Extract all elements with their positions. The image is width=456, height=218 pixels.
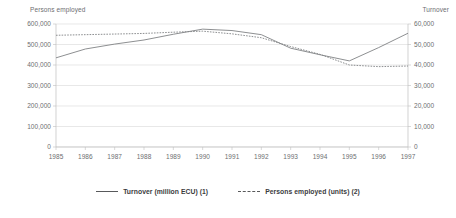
x-tick-label: 1988 — [137, 153, 152, 160]
left-tick-label: 500,000 — [27, 41, 51, 48]
right-axis-tick-labels: 010,00020,00030,00040,00050,00060,000 — [414, 20, 435, 150]
legend-item-turnover: Turnover (million ECU) (1) — [96, 188, 208, 195]
x-tick-label: 1989 — [166, 153, 181, 160]
right-tick-label: 30,000 — [414, 82, 435, 89]
data-series — [56, 29, 408, 67]
x-tick-label: 1996 — [371, 153, 386, 160]
series-line-persons-employed — [56, 31, 408, 66]
left-tick-label: 0 — [47, 143, 51, 150]
left-tick-label: 600,000 — [27, 20, 51, 27]
x-tick-label: 1997 — [401, 153, 416, 160]
chart-container: Persons employed Turnover 0100,000200,00… — [0, 0, 456, 218]
gridlines — [56, 24, 408, 147]
x-tick-label: 1985 — [49, 153, 64, 160]
right-tick-label: 60,000 — [414, 20, 435, 27]
left-tick-label: 100,000 — [27, 123, 51, 130]
x-tick-label: 1991 — [225, 153, 240, 160]
legend-line-dashed-icon — [238, 191, 260, 193]
x-tick-label: 1995 — [342, 153, 357, 160]
x-tick-label: 1992 — [254, 153, 269, 160]
x-tick-label: 1994 — [313, 153, 328, 160]
right-tick-label: 50,000 — [414, 41, 435, 48]
x-tick-label: 1990 — [195, 153, 210, 160]
x-axis-tick-labels: 1985198619871988198919901991199219931994… — [49, 153, 416, 160]
left-axis-tick-labels: 0100,000200,000300,000400,000500,000600,… — [27, 20, 51, 150]
axis-tickmarks — [53, 24, 411, 150]
left-tick-label: 400,000 — [27, 61, 51, 68]
right-tick-label: 10,000 — [414, 123, 435, 130]
right-tick-label: 40,000 — [414, 61, 435, 68]
chart-legend: Turnover (million ECU) (1) Persons emplo… — [0, 188, 456, 195]
legend-line-solid-icon — [96, 191, 118, 193]
left-tick-label: 300,000 — [27, 82, 51, 89]
left-tick-label: 200,000 — [27, 102, 51, 109]
series-line-turnover — [56, 29, 408, 61]
x-tick-label: 1986 — [78, 153, 93, 160]
legend-label-turnover: Turnover (million ECU) (1) — [123, 188, 208, 195]
plot-area: 0100,000200,000300,000400,000500,000600,… — [0, 0, 456, 188]
x-tick-label: 1987 — [107, 153, 122, 160]
legend-item-persons-employed: Persons employed (units) (2) — [238, 188, 360, 195]
x-tick-label: 1993 — [283, 153, 298, 160]
right-tick-label: 0 — [414, 143, 418, 150]
right-tick-label: 20,000 — [414, 102, 435, 109]
legend-label-persons-employed: Persons employed (units) (2) — [265, 188, 360, 195]
